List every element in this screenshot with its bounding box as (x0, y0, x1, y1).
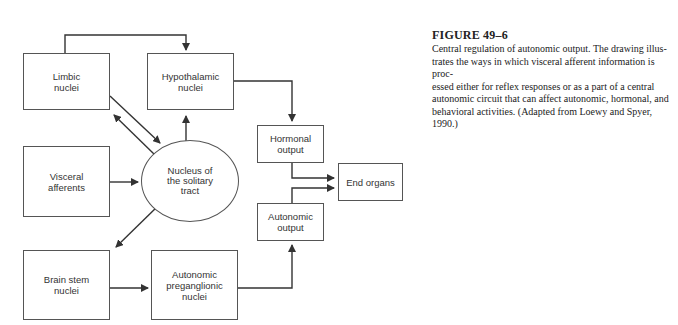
caption-line: trates the ways in which visceral affere… (432, 56, 677, 81)
node-label: Autonomic preganglionic nuclei (159, 269, 231, 302)
caption-line: Central regulation of autonomic output. … (432, 43, 677, 56)
caption-line: autonomic circuit that can affect autono… (432, 93, 677, 106)
hypothalamic-nuclei-node: Hypothalamic nuclei (147, 53, 234, 110)
node-label: Brain stem nuclei (37, 274, 97, 296)
figure-caption: FIGURE 49–6 Central regulation of autono… (432, 28, 677, 131)
node-label: Autonomic output (263, 211, 319, 233)
autonomic-preganglionic-node: Autonomic preganglionic nuclei (151, 250, 238, 320)
nucleus-solitary-tract-node: Nucleus of the solitary tract (141, 140, 239, 222)
node-label: Limbic nuclei (42, 71, 92, 93)
visceral-afferents-node: Visceral afferents (23, 146, 110, 217)
hormonal-output-node: Hormonal output (257, 125, 324, 163)
node-label: Visceral afferents (37, 171, 97, 193)
node-label: Nucleus of the solitary tract (166, 166, 214, 196)
autonomic-output-node: Autonomic output (257, 203, 324, 241)
end-organs-node: End organs (338, 163, 403, 201)
brain-stem-nuclei-node: Brain stem nuclei (23, 250, 110, 320)
figure-title: FIGURE 49–6 (432, 28, 677, 43)
node-label: Hormonal output (265, 133, 317, 155)
node-label: End organs (346, 177, 395, 188)
node-label: Hypothalamic nuclei (156, 71, 226, 93)
caption-line: behavioral activities. (Adapted from Loe… (432, 106, 677, 131)
limbic-nuclei-node: Limbic nuclei (23, 53, 110, 110)
caption-line: essed either for reflex responses or as … (432, 81, 677, 94)
